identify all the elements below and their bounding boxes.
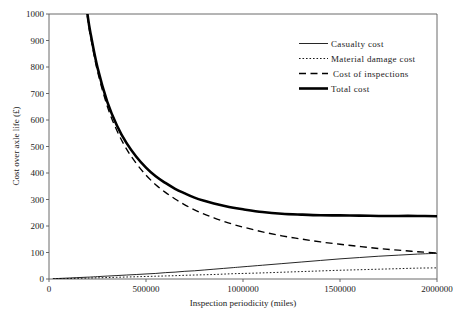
series-material-damage-cost xyxy=(53,268,437,279)
chart-legend: Casualty cost Material damage cost Cost … xyxy=(296,32,436,94)
y-tick-label: 700 xyxy=(31,89,45,99)
y-tick-label: 500 xyxy=(31,142,45,152)
legend-item-casualty-cost: Casualty cost xyxy=(299,39,384,49)
x-axis-tick-labels: 0 500000 1000000 1500000 2000000 xyxy=(47,284,454,294)
y-tick-label: 0 xyxy=(40,274,45,284)
x-axis-title: Inspection periodicity (miles) xyxy=(190,298,296,308)
legend-label: Casualty cost xyxy=(331,39,384,49)
legend-label: Cost of inspections xyxy=(333,69,409,79)
x-tick-label: 1000000 xyxy=(227,284,259,294)
y-tick-label: 600 xyxy=(31,115,45,125)
y-axis-tick-labels: 1000 900 800 700 600 500 400 300 200 100… xyxy=(26,9,45,284)
x-tick-label: 0 xyxy=(47,284,52,294)
legend-item-material-damage-cost: Material damage cost xyxy=(299,54,416,64)
x-tick-label: 2000000 xyxy=(421,284,453,294)
y-tick-label: 200 xyxy=(31,221,45,231)
x-tick-label: 500000 xyxy=(133,284,161,294)
x-axis-ticks xyxy=(49,279,437,282)
legend-label: Material damage cost xyxy=(331,54,416,64)
y-tick-label: 400 xyxy=(31,168,45,178)
legend-item-cost-of-inspections: Cost of inspections xyxy=(299,69,409,79)
y-tick-label: 900 xyxy=(31,36,45,46)
legend-item-total-cost: Total cost xyxy=(299,84,370,94)
y-tick-label: 1000 xyxy=(26,9,45,19)
legend-label: Total cost xyxy=(331,84,370,94)
x-tick-label: 1500000 xyxy=(324,284,356,294)
y-axis-title: Cost over axle life (£) xyxy=(11,107,21,186)
y-tick-label: 800 xyxy=(31,62,45,72)
cost-vs-inspection-periodicity-chart: 1000 900 800 700 600 500 400 300 200 100… xyxy=(0,0,465,319)
series-total-cost xyxy=(53,0,437,216)
y-tick-label: 100 xyxy=(31,248,45,258)
chart-container: 1000 900 800 700 600 500 400 300 200 100… xyxy=(0,0,465,319)
y-tick-label: 300 xyxy=(31,195,45,205)
series-casualty-cost xyxy=(53,253,437,278)
